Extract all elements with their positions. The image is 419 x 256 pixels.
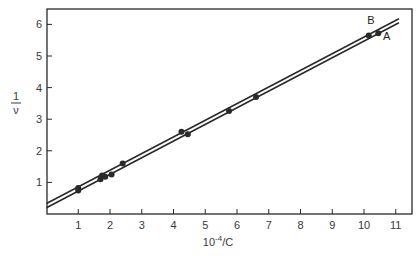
data-point-a [253,94,259,100]
x-tick-label: 1 [75,219,81,231]
y-tick-label: 6 [36,18,42,30]
y-tick-label: 2 [36,145,42,157]
data-point-b [366,32,372,38]
x-tick-label: 9 [329,219,335,231]
line-label-a: A [383,30,391,42]
data-point-a [109,172,115,178]
x-tick-label: 10 [358,219,370,231]
x-tick-label: 11 [390,219,401,231]
y-axis-label: 1 ν [11,90,21,116]
data-point-b [120,160,126,166]
data-point-a [226,108,232,114]
data-point-a [375,30,381,36]
x-axis-ticks: 1234567891011 [75,209,401,231]
data-point-a [75,188,81,194]
y-tick-label: 3 [36,113,42,125]
x-axis-label: 10-4/C [203,234,233,248]
chart-svg: 1234567891011 123456 BA 10-4/C 1 ν [0,0,419,256]
x-tick-label: 2 [107,219,113,231]
y-axis-ticks: 123456 [36,18,52,188]
x-tick-label: 5 [202,219,208,231]
x-tick-label: 4 [170,219,176,231]
line-label-b: B [367,14,374,26]
svg-text:ν: ν [13,104,19,116]
x-tick-label: 3 [139,219,145,231]
x-tick-label: 7 [266,219,272,231]
y-tick-label: 1 [36,176,42,188]
y-tick-label: 5 [36,50,42,62]
x-tick-label: 8 [297,219,303,231]
x-tick-label: 6 [234,219,240,231]
data-point-a [102,174,108,180]
y-tick-label: 4 [36,82,42,94]
svg-text:1: 1 [13,90,19,102]
data-point-a [185,131,191,137]
data-point-b [178,129,184,135]
